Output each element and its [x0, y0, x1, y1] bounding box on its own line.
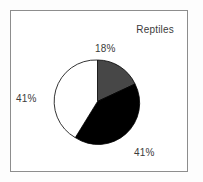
pie-slice-label-2: 41% [134, 147, 155, 158]
pie-slice-label-1: 18% [95, 43, 116, 54]
pie-slice-label-3: 41% [16, 93, 37, 104]
plot-frame: Reptiles [10, 10, 188, 172]
pie-graphic [11, 11, 189, 173]
pie-chart-figure: Reptiles 18% 41% 41% [0, 0, 203, 182]
